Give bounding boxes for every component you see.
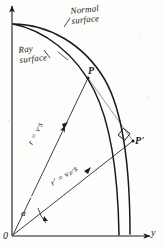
figure-normal-and-ray-surface: Normal surface Ray surface P P' r = v·s …: [0, 0, 163, 248]
radius-normal-arrowhead: [62, 122, 68, 129]
tangent-line-p-to-p-prime: [88, 78, 133, 141]
radius-ray-line: [13, 140, 134, 235]
normal-surface-leader: [64, 18, 70, 27]
normal-surface-label: Normal surface: [70, 4, 101, 26]
origin-label: 0: [3, 231, 8, 242]
angle-alpha-label: α: [21, 209, 26, 219]
ray-surface-label-line2: surface: [19, 52, 48, 65]
normal-surface-label-line2: surface: [71, 13, 100, 26]
point-p-prime-label: P': [135, 136, 144, 147]
axis-y-label: y: [151, 228, 156, 239]
ray-surface-label: Ray surface: [18, 43, 48, 65]
point-p-marker: [87, 77, 90, 80]
radius-ray-arrowhead: [84, 167, 91, 174]
point-p-label: P: [88, 66, 94, 77]
angle-alpha-tick: [43, 216, 48, 221]
